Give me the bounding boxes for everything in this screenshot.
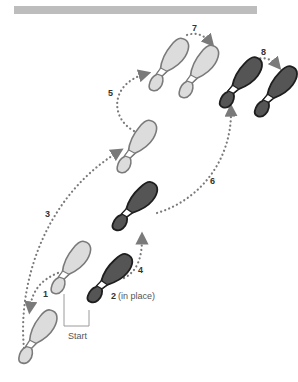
footprints	[17, 33, 298, 369]
start-label: Start	[68, 331, 88, 341]
footprint-start-left	[50, 236, 94, 300]
path-step-5	[117, 74, 145, 131]
footprint-step1-left	[17, 305, 59, 369]
step-label-7: 7	[192, 23, 197, 33]
path-step-6	[157, 110, 231, 213]
step-label-2: 2	[111, 291, 116, 301]
step-label-8: 8	[261, 47, 266, 57]
path-step-7	[187, 34, 210, 42]
start-bracket	[64, 294, 89, 326]
step-labels: 1 2 (in place) 3 4 5 6 7 8 Start	[43, 23, 266, 341]
step-label-5: 5	[108, 88, 113, 98]
footprint-start-right	[86, 247, 136, 311]
footstep-diagram: 1 2 (in place) 3 4 5 6 7 8 Start	[0, 0, 298, 382]
footprint-step4-right	[111, 175, 161, 239]
path-step-3	[23, 152, 118, 348]
step-label-6: 6	[210, 176, 215, 186]
footprint-step3-left	[116, 115, 160, 179]
step-label-4: 4	[138, 265, 143, 275]
step-label-1: 1	[43, 289, 48, 299]
step-label-2-note: (in place)	[118, 291, 155, 301]
step-label-3: 3	[45, 209, 50, 219]
